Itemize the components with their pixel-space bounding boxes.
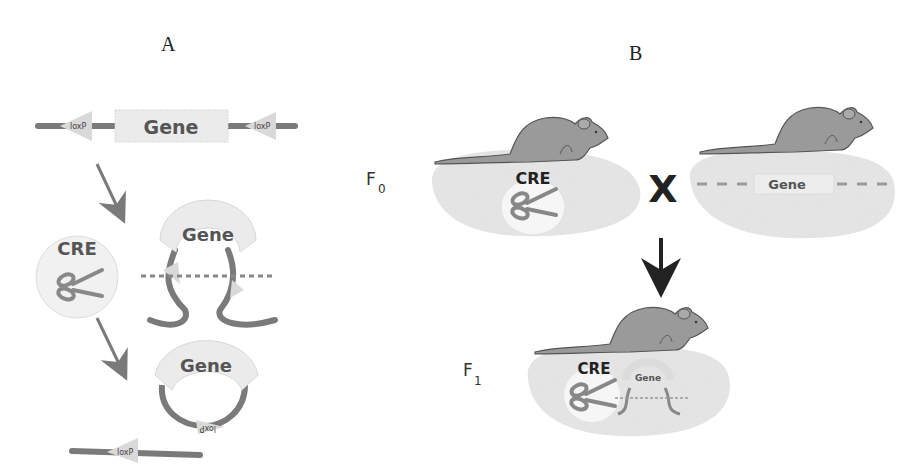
cre-mouse: CRE bbox=[432, 117, 640, 236]
cre-label: CRE bbox=[516, 169, 551, 188]
loxp-site-right: loxP bbox=[245, 112, 276, 140]
f1-mouse: CRE Gene bbox=[528, 307, 730, 436]
f0-subscript: 0 bbox=[378, 182, 386, 196]
excised-circle: Gene loxP bbox=[155, 341, 258, 434]
recombined-dna: loxP bbox=[72, 438, 200, 463]
cross-symbol: X bbox=[648, 167, 677, 211]
loxp-site-left: loxP bbox=[60, 111, 92, 141]
gene-label: Gene bbox=[182, 224, 234, 245]
cre-lox-diagram: A loxP Gene loxP CRE Gene G bbox=[0, 0, 921, 475]
panel-a-label: A bbox=[161, 33, 176, 55]
gene-label: Gene bbox=[180, 355, 232, 376]
floxed-gene-construct: loxP Gene loxP bbox=[38, 110, 295, 142]
f0-label: F bbox=[366, 169, 376, 189]
gene-label: Gene bbox=[635, 373, 661, 383]
arrow-icon bbox=[97, 164, 120, 213]
arrow-icon bbox=[97, 318, 122, 370]
loxp-site bbox=[230, 280, 244, 298]
cre-label: CRE bbox=[57, 238, 96, 259]
gene-label: Gene bbox=[144, 116, 199, 138]
svg-text:loxP: loxP bbox=[70, 122, 87, 131]
looped-dna: Gene bbox=[141, 200, 275, 325]
svg-text:loxP: loxP bbox=[254, 122, 271, 131]
gene-label: Gene bbox=[768, 177, 806, 192]
mouse-icon bbox=[700, 107, 873, 154]
svg-text:loxP: loxP bbox=[199, 424, 216, 433]
f1-subscript: 1 bbox=[474, 374, 482, 388]
svg-text:loxP: loxP bbox=[117, 448, 134, 457]
mouse-icon bbox=[535, 307, 708, 354]
cre-label: CRE bbox=[578, 360, 611, 378]
cre-recombinase: CRE bbox=[36, 236, 118, 318]
floxed-mouse: Gene bbox=[690, 107, 895, 238]
f1-label: F bbox=[463, 360, 473, 380]
panel-b-label: B bbox=[629, 42, 642, 64]
